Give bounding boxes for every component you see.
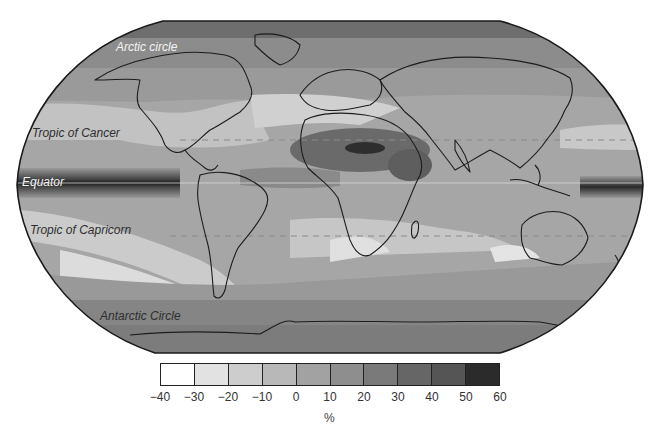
colorbar-bin <box>229 364 263 385</box>
colorbar-tick-label: 0 <box>293 390 300 404</box>
colorbar-ticks: −40−30−20−100102030405060 <box>160 390 500 406</box>
antarctic-circle-label: Antarctic Circle <box>99 309 181 323</box>
colorbar <box>160 363 500 386</box>
tropic-of-cancer-label: Tropic of Cancer <box>32 126 121 140</box>
colorbar-bin <box>432 364 466 385</box>
colorbar-tick-label: 20 <box>357 390 370 404</box>
colorbar-bin <box>398 364 432 385</box>
colorbar-tick-label: −10 <box>252 390 272 404</box>
colorbar-bin <box>263 364 297 385</box>
colorbar-unit-label: % <box>324 411 335 425</box>
colorbar-bin <box>297 364 331 385</box>
colorbar-tick-label: 40 <box>425 390 438 404</box>
colorbar-bin <box>331 364 365 385</box>
colorbar-tick-label: 60 <box>493 390 506 404</box>
tropic-of-capricorn-label: Tropic of Capricorn <box>30 223 131 237</box>
colorbar-bin <box>161 364 195 385</box>
equator-label: Equator <box>22 175 65 189</box>
colorbar-tick-label: 10 <box>323 390 336 404</box>
colorbar-bin <box>466 364 499 385</box>
colorbar-tick-label: −20 <box>218 390 238 404</box>
colorbar-bin <box>364 364 398 385</box>
colorbar-tick-label: 50 <box>459 390 472 404</box>
colorbar-bin <box>195 364 229 385</box>
colorbar-tick-label: −40 <box>150 390 170 404</box>
colorbar-tick-label: 30 <box>391 390 404 404</box>
colorbar-tick-label: −30 <box>184 390 204 404</box>
arctic-circle-label: Arctic circle <box>115 40 178 54</box>
